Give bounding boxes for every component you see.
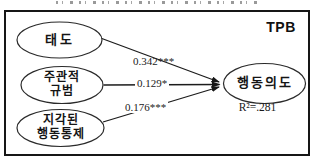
node-pbc-label-line2: 행동통제 (17, 128, 104, 142)
coefficient-norm: 0.129* (135, 77, 169, 89)
coefficient-attitude: 0.342*** (133, 55, 174, 67)
coefficient-pbc: 0.176*** (123, 101, 168, 113)
node-pbc-label-line1: 지각된 (17, 114, 104, 128)
tpb-path-diagram: { "diagram": { "type": "path-model", "mo… (0, 0, 318, 164)
node-attitude-label: 태도 (17, 33, 102, 47)
node-subjective-norm-label-line1: 주관적 (22, 71, 102, 85)
model-label: TPB (256, 19, 306, 35)
r-squared-value: R²=.281 (220, 101, 295, 113)
node-subjective-norm-label-line2: 규범 (22, 85, 102, 99)
node-pbc-label: 지각된 행동통제 (17, 114, 104, 141)
node-intention-label: 행동의도 (223, 76, 306, 90)
node-subjective-norm-label: 주관적 규범 (22, 71, 102, 98)
